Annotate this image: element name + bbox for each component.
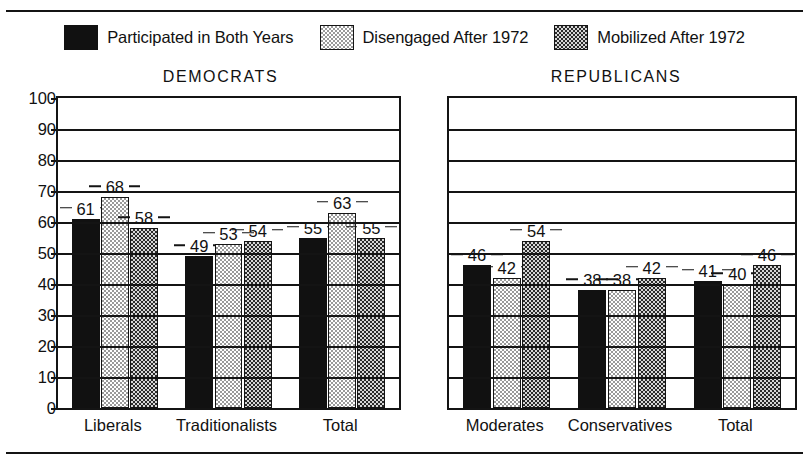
value-leader-rule — [481, 266, 493, 268]
gridline — [449, 129, 795, 131]
gridline — [449, 377, 795, 379]
bar-value-label: 49 — [190, 238, 208, 255]
bar — [493, 278, 521, 408]
bar-value-label: 54 — [527, 222, 545, 239]
value-leader-rule — [272, 229, 284, 231]
value-leader-rule — [666, 266, 678, 268]
value-leader-rule — [203, 232, 215, 234]
bar — [638, 278, 666, 408]
value-leader-rule — [550, 229, 562, 231]
bar — [130, 228, 158, 408]
bar-value-label: 42 — [497, 259, 515, 276]
bar-value-label: 63 — [333, 194, 351, 211]
gridline — [449, 315, 795, 317]
y-axis-tick-label: 50 — [14, 245, 56, 262]
value-leader-rule — [60, 207, 72, 209]
bar — [608, 290, 636, 408]
bar-value-label: 54 — [249, 222, 267, 239]
gridline — [58, 377, 399, 379]
value-leader-rule — [174, 244, 186, 246]
legend-swatch-participated-icon — [64, 25, 98, 50]
gridline — [58, 160, 399, 162]
bar — [522, 241, 550, 408]
gridline — [449, 160, 795, 162]
y-axis-tick-label: 10 — [14, 369, 56, 386]
y-axis: 1009080706050403020100 — [10, 96, 56, 410]
value-leader-rule — [287, 226, 299, 228]
bar — [578, 290, 606, 408]
plot-area-democrats: 616858495354556355 — [56, 96, 401, 410]
bar — [694, 281, 722, 408]
panel-title-republicans: REPUBLICANS — [415, 68, 803, 86]
value-leader-rule — [129, 185, 141, 187]
value-leader-rule — [566, 278, 578, 280]
x-axis-category-label: Total — [718, 416, 753, 435]
x-axis-category-label: Total — [323, 416, 358, 435]
bar — [72, 219, 100, 408]
y-axis-tick-label: 90 — [14, 121, 56, 138]
value-leader-rule — [89, 185, 101, 187]
y-axis-tick-label: 100 — [14, 90, 56, 107]
value-leader-rule — [682, 269, 694, 271]
gridline — [58, 346, 399, 348]
bar-value-label: 46 — [468, 247, 486, 264]
bar — [463, 265, 491, 408]
value-leader-rule — [385, 226, 397, 228]
gridline — [58, 284, 399, 286]
panel-title-democrats: DEMOCRATS — [10, 68, 405, 86]
x-axis-labels-republicans: ModeratesConservativesTotal — [447, 416, 797, 442]
y-axis-tick-label: 30 — [14, 307, 56, 324]
y-axis-tick-label: 60 — [14, 214, 56, 231]
y-axis-tick-label: 70 — [14, 183, 56, 200]
x-axis-category-label: Conservatives — [568, 416, 673, 435]
bar-value-label: 38 — [613, 272, 631, 289]
legend-item-participated: Participated in Both Years — [64, 25, 293, 50]
x-axis-category-label: Traditionalists — [176, 416, 277, 435]
bar-value-label: 38 — [583, 272, 601, 289]
bar — [753, 265, 781, 408]
figure-bottom-rule — [6, 452, 803, 454]
gridline — [58, 315, 399, 317]
value-leader-rule — [232, 229, 244, 231]
legend-item-disengaged: Disengaged After 1972 — [320, 25, 529, 50]
gridline — [58, 222, 399, 224]
figure-top-rule — [6, 10, 803, 12]
bar-value-label: 68 — [106, 179, 124, 196]
bar — [215, 244, 243, 408]
value-leader-rule — [317, 201, 329, 203]
value-leader-rule — [356, 201, 368, 203]
value-leader-rule — [158, 216, 170, 218]
legend-swatch-disengaged-icon — [320, 25, 354, 50]
value-leader-rule — [626, 266, 638, 268]
gridline — [58, 253, 399, 255]
y-axis-tick-label: 40 — [14, 276, 56, 293]
y-axis-tick-label: 80 — [14, 152, 56, 169]
legend-item-mobilized: Mobilized After 1972 — [554, 25, 745, 50]
y-axis-tick-label: 0 — [14, 400, 56, 417]
bar-value-label: 53 — [219, 225, 237, 242]
gridline — [449, 222, 795, 224]
bar-value-label: 46 — [758, 247, 776, 264]
bar-value-label: 61 — [76, 200, 94, 217]
value-leader-rule — [711, 272, 723, 274]
bar — [244, 241, 272, 408]
bar-value-label: 40 — [728, 266, 746, 283]
gridline — [449, 253, 795, 255]
chart-figure: Participated in Both Years Disengaged Af… — [0, 0, 809, 464]
x-axis-category-label: Moderates — [466, 416, 544, 435]
x-axis-labels-democrats: LiberalsTraditionalistsTotal — [56, 416, 401, 442]
value-leader-rule — [510, 229, 522, 231]
value-leader-rule — [118, 216, 130, 218]
chart-legend: Participated in Both Years Disengaged Af… — [0, 20, 809, 54]
bar-value-label: 41 — [699, 262, 717, 279]
gridline — [449, 191, 795, 193]
legend-swatch-mobilized-icon — [554, 25, 588, 50]
legend-label-participated: Participated in Both Years — [107, 28, 293, 47]
value-leader-rule — [596, 278, 608, 280]
plot-area-republicans: 464254383842414046 — [447, 96, 797, 410]
bar-value-label: 58 — [135, 210, 153, 227]
legend-label-mobilized: Mobilized After 1972 — [597, 28, 745, 47]
gridline — [449, 346, 795, 348]
bar — [299, 238, 327, 409]
x-axis-category-label: Liberals — [84, 416, 142, 435]
